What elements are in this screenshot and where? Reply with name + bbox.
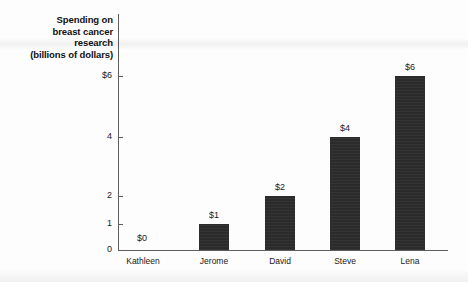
chart-page: Spending on breast cancer research (bill… (0, 0, 468, 282)
category-label-lena: Lena (384, 257, 436, 266)
y-tick-mark-2 (118, 196, 123, 197)
y-tick-label-2: 2 (72, 191, 112, 200)
y-axis-title-line-1: Spending on (8, 14, 113, 26)
category-label-steve: Steve (319, 257, 371, 266)
y-tick-mark-1 (118, 224, 123, 225)
y-tick-label-1: 1 (72, 219, 112, 228)
y-tick-mark-4 (118, 137, 123, 138)
y-tick-mark-6 (118, 76, 123, 77)
bar-value-lena: $6 (385, 63, 435, 72)
bar-david (265, 196, 295, 250)
y-axis-title: Spending on breast cancer research (bill… (8, 14, 113, 60)
bar-value-jerome: $1 (189, 211, 239, 220)
bar-chart-plot: Spending on breast cancer research (bill… (0, 0, 468, 282)
y-tick-label-4: 4 (72, 132, 112, 141)
x-axis-line (118, 250, 448, 251)
y-tick-label-0: 0 (72, 245, 112, 254)
category-label-jerome: Jerome (188, 257, 240, 266)
category-label-david: David (254, 257, 306, 266)
bar-jerome (199, 224, 229, 250)
bar-value-david: $2 (255, 183, 305, 192)
y-axis-title-line-2: breast cancer (8, 26, 113, 38)
y-tick-label-6: $6 (72, 71, 112, 80)
y-axis-title-line-4: (billions of dollars) (8, 49, 113, 61)
y-axis-line (118, 14, 119, 251)
bar-steve (330, 137, 360, 250)
bar-value-kathleen: $0 (117, 234, 167, 243)
y-axis-title-line-3: research (8, 37, 113, 49)
bar-value-steve: $4 (320, 124, 370, 133)
category-label-kathleen: Kathleen (117, 257, 169, 266)
bar-lena (395, 76, 425, 250)
